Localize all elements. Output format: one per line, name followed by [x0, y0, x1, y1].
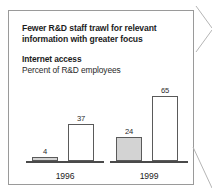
figure-frame: Fewer R&D staff trawl for relevant infor…	[8, 10, 194, 185]
bar-chart: 4 37 1996 24 65 1999	[18, 89, 186, 181]
bar-value-label: 24	[125, 127, 133, 136]
bar-group-1996: 4 37 1996	[26, 89, 104, 181]
x-axis-label-1999: 1999	[110, 171, 188, 181]
bar-group-1999: 24 65 1999	[110, 89, 188, 181]
figure-subnote: Percent of R&D employees	[22, 65, 188, 76]
x-axis-label-1996: 1996	[26, 171, 104, 181]
bar-value-label: 37	[77, 114, 85, 123]
axis-baseline-1996	[26, 161, 104, 163]
bar-1999-series-b: 65	[152, 96, 178, 161]
bar-group-1999-bars: 24 65	[110, 91, 188, 161]
bar-value-label: 65	[161, 86, 169, 95]
figure-headline: Fewer R&D staff trawl for relevant infor…	[22, 23, 188, 46]
bar-group-1996-bars: 4 37	[26, 91, 104, 161]
bar-1999-series-a: 24	[116, 137, 142, 161]
figure-subhead: Internet access	[22, 54, 188, 65]
bar-1996-series-b: 37	[68, 124, 94, 161]
figure-text-block: Fewer R&D staff trawl for relevant infor…	[22, 23, 188, 76]
bar-value-label: 4	[43, 147, 47, 156]
axis-baseline-1999	[110, 161, 188, 163]
